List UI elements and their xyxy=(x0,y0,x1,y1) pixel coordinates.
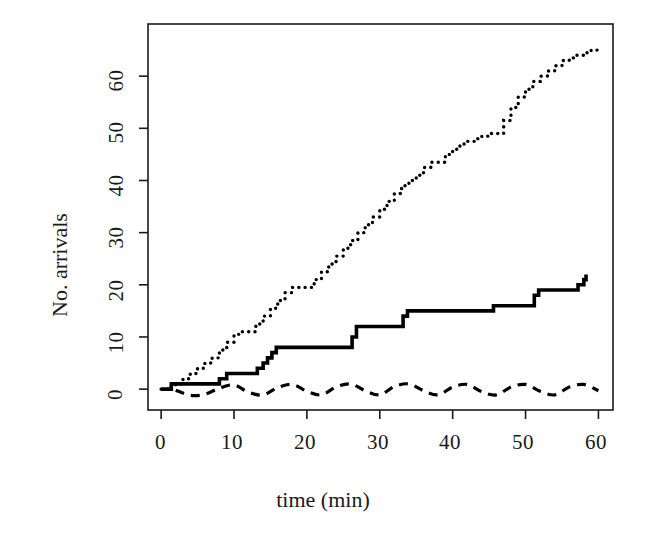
y-tick-label-50: 50 xyxy=(104,122,129,144)
x-tick-label-10: 10 xyxy=(221,430,243,455)
y-axis-title: No. arrivals xyxy=(47,165,73,365)
x-tick-label-60: 60 xyxy=(585,430,607,455)
x-tick-label-30: 30 xyxy=(367,430,389,455)
y-tick-label-30: 30 xyxy=(104,227,129,249)
y-tick-label-0: 0 xyxy=(103,389,128,400)
x-axis-title: time (min) xyxy=(0,487,646,513)
x-tick-label-0: 0 xyxy=(155,430,166,455)
axis-ticks xyxy=(139,76,598,419)
plot-canvas xyxy=(0,0,646,545)
series-dashed-residual-oscillation xyxy=(176,384,599,396)
series-dotted-cumulative-arrivals xyxy=(161,47,598,389)
y-tick-label-10: 10 xyxy=(104,332,129,354)
x-tick-label-40: 40 xyxy=(439,430,461,455)
x-tick-label-50: 50 xyxy=(512,430,534,455)
y-tick-label-60: 60 xyxy=(104,70,129,92)
y-tick-label-40: 40 xyxy=(104,175,129,197)
x-tick-label-20: 20 xyxy=(294,430,316,455)
series-solid-step-arrivals xyxy=(161,274,586,389)
data-series-group xyxy=(161,47,598,395)
chart-figure: 0 10 20 30 40 50 60 0 10 20 30 40 50 60 … xyxy=(0,0,646,545)
y-tick-label-20: 20 xyxy=(104,280,129,302)
